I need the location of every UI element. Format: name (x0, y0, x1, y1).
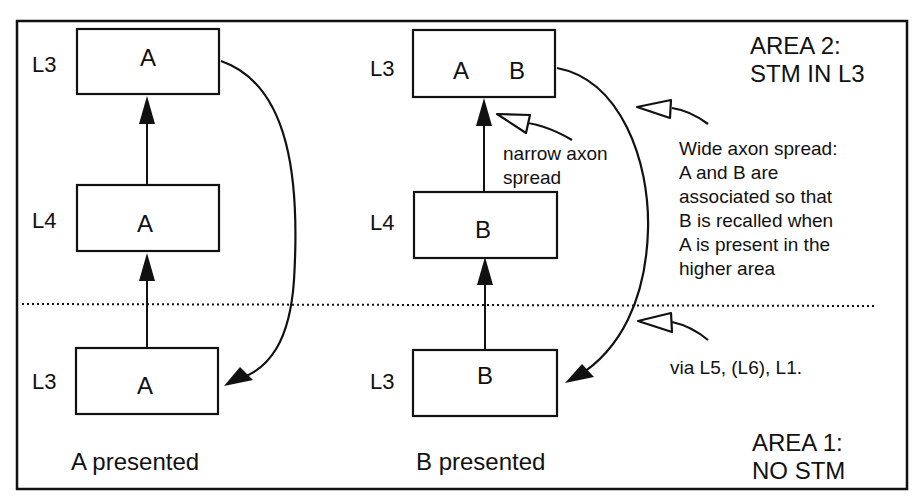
box-content: B (475, 216, 491, 243)
narrow-axon-label-line1: narrow axon (503, 143, 608, 164)
layer-label: L3 (370, 56, 394, 81)
wide-axon-pointer-icon (637, 100, 708, 124)
layer-label: L3 (32, 369, 56, 394)
arrow-up-icon (476, 98, 492, 192)
area2-title: AREA 2: STM IN L3 (750, 32, 865, 87)
narrow-axon-label-line2: spread (503, 167, 561, 188)
svg-text:B is recalled when: B is recalled when (679, 210, 833, 231)
box-content: A (137, 210, 153, 237)
caption-b-presented: B presented (416, 448, 545, 475)
open-pointer-icon (497, 114, 572, 140)
area-divider (22, 304, 876, 306)
arrow-up-icon (139, 96, 155, 185)
svg-text:higher area: higher area (679, 258, 776, 279)
box-content: A (137, 372, 153, 399)
layer-label: L3 (370, 369, 394, 394)
arrow-up-icon (477, 257, 493, 350)
column-b-presented: L3 A B L4 B L3 B narrow axon spread (370, 30, 648, 475)
via-layers-note: via L5, (L6), L1. (670, 357, 802, 378)
box-content-b: B (509, 57, 525, 84)
area1-title: AREA 1: NO STM (752, 429, 845, 484)
svg-text:A and B are: A and B are (679, 162, 778, 183)
box-content: A (140, 44, 156, 71)
layer-label: L3 (32, 52, 56, 77)
feedback-arrow-icon (221, 61, 295, 386)
feedback-arrow-icon (557, 68, 648, 383)
svg-text:associated so that: associated so that (679, 186, 833, 207)
wide-axon-note: Wide axon spread: A and B are associated… (679, 138, 837, 279)
svg-text:STM IN L3: STM IN L3 (750, 60, 865, 87)
cortical-area-diagram: L3 A L4 A L3 A A presented L3 A B L4 (0, 0, 924, 499)
caption-a-presented: A presented (71, 448, 199, 475)
box-ab-l3-area2 (413, 30, 555, 97)
layer-label: L4 (32, 208, 56, 233)
arrow-up-icon (139, 253, 155, 348)
layer-label: L4 (370, 210, 394, 235)
via-pointer-icon (638, 313, 708, 340)
svg-text:Wide axon spread:: Wide axon spread: (679, 138, 837, 159)
svg-text:A is present in the: A is present in the (679, 234, 830, 255)
svg-text:NO STM: NO STM (752, 457, 845, 484)
svg-text:AREA 1:: AREA 1: (752, 429, 843, 456)
column-a-presented: L3 A L4 A L3 A A presented (32, 29, 295, 475)
svg-text:AREA 2:: AREA 2: (750, 32, 841, 59)
box-content: B (477, 362, 493, 389)
box-content-a: A (453, 57, 469, 84)
